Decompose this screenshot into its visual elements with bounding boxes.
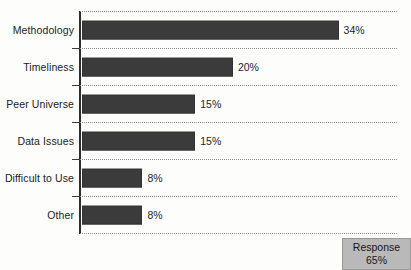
category-label-data-issues: Data Issues [0, 135, 74, 147]
category-label-timeliness: Timeliness [0, 61, 74, 73]
bar-value-label: 34% [344, 24, 365, 36]
bar-row: Data Issues15% [0, 122, 411, 159]
category-label-other: Other [0, 209, 74, 221]
bar-value-label: 15% [200, 98, 221, 110]
bar-and-value: 34% [82, 20, 365, 39]
bar-and-value: 8% [82, 168, 163, 187]
bar-value-label: 20% [238, 61, 259, 73]
bar-and-value: 15% [82, 131, 221, 150]
bar-difficult-to-use [82, 168, 142, 187]
bar-and-value: 20% [82, 57, 259, 76]
bar-value-label: 15% [200, 135, 221, 147]
bar-row: Methodology34% [0, 11, 411, 48]
category-label-difficult-to-use: Difficult to Use [0, 172, 74, 184]
bar-row: Other8% [0, 196, 411, 233]
bar-and-value: 15% [82, 94, 221, 113]
horizontal-bar-chart: Methodology34%Timeliness20%Peer Universe… [0, 0, 411, 270]
bar-row: Peer Universe15% [0, 85, 411, 122]
bar-row: Timeliness20% [0, 48, 411, 85]
gridline [80, 233, 397, 234]
bar-other [82, 205, 142, 224]
response-rate-label: Response [353, 241, 400, 254]
bar-value-label: 8% [147, 172, 162, 184]
bar-and-value: 8% [82, 205, 163, 224]
bar-data-issues [82, 131, 195, 150]
bar-methodology [82, 20, 339, 39]
category-label-methodology: Methodology [0, 24, 74, 36]
bar-value-label: 8% [147, 209, 162, 221]
response-rate-value: 65% [366, 254, 387, 267]
bar-row: Difficult to Use8% [0, 159, 411, 196]
category-label-peer-universe: Peer Universe [0, 98, 74, 110]
bar-timeliness [82, 57, 233, 76]
bar-peer-universe [82, 94, 195, 113]
response-rate-callout: Response 65% [342, 238, 411, 270]
